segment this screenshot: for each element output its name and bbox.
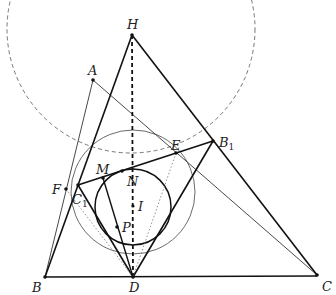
label-C1: C1 bbox=[72, 192, 88, 209]
point-C bbox=[315, 273, 319, 277]
point-D bbox=[131, 275, 135, 279]
label-N: N bbox=[126, 174, 139, 189]
segment-HD bbox=[132, 35, 133, 277]
label-P: P bbox=[121, 220, 131, 235]
point-B bbox=[43, 275, 47, 279]
geometry-diagram: H A B C D E B1 C1 F M N I P bbox=[0, 0, 336, 295]
label-A: A bbox=[87, 63, 97, 78]
points bbox=[43, 33, 319, 279]
label-E: E bbox=[170, 138, 181, 153]
point-C1 bbox=[76, 183, 80, 187]
segment-AB bbox=[45, 80, 93, 277]
point-A bbox=[91, 78, 95, 82]
point-N bbox=[120, 169, 124, 173]
label-M: M bbox=[95, 162, 110, 177]
segment-B1D bbox=[133, 141, 213, 277]
segment-HC bbox=[132, 35, 317, 275]
point-B1 bbox=[211, 139, 215, 143]
label-F: F bbox=[51, 182, 62, 197]
label-C: C bbox=[322, 279, 332, 294]
point-I bbox=[131, 204, 134, 207]
label-B: B bbox=[31, 280, 42, 295]
label-H: H bbox=[126, 17, 139, 32]
point-F bbox=[64, 187, 68, 191]
point-P bbox=[115, 225, 119, 229]
label-D: D bbox=[128, 280, 140, 295]
label-I: I bbox=[137, 199, 144, 214]
segment-BC bbox=[45, 276, 317, 277]
label-B1: B1 bbox=[218, 135, 234, 152]
diagram-svg: H A B C D E B1 C1 F M N I P bbox=[0, 0, 336, 295]
point-H bbox=[130, 33, 134, 37]
